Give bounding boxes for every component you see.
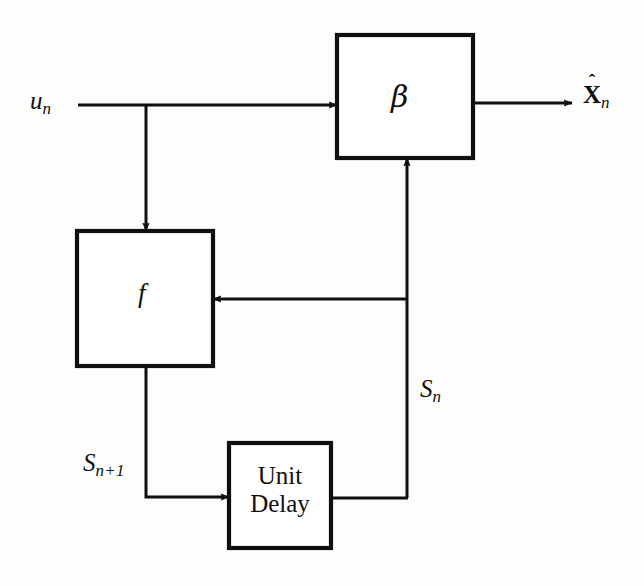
output-signal-subscript: n [601, 93, 610, 112]
f-block-label: f [138, 280, 146, 307]
figure-canvas: un β ˆ X n f Sn Sn+1 Unit Delay [0, 0, 644, 586]
unit-delay-block-label: Unit Delay [234, 462, 326, 518]
state-current-base: S [420, 375, 433, 402]
output-signal-label: ˆ X n [583, 82, 610, 111]
input-signal-base: u [30, 87, 43, 114]
state-next-base: S [83, 449, 96, 476]
state-current-label: Sn [420, 376, 441, 405]
output-hat-accent: ˆ [589, 71, 596, 91]
f-to-unit-delay-path [146, 366, 229, 497]
input-signal-label: un [30, 88, 51, 117]
input-signal-subscript: n [43, 99, 52, 118]
state-next-subscript: n+1 [96, 461, 125, 480]
output-signal-base-wrap: ˆ X [583, 82, 601, 107]
beta-block-label: β [391, 82, 408, 112]
state-next-label: Sn+1 [83, 450, 125, 479]
f-glyph: f [138, 278, 146, 308]
beta-glyph: β [391, 79, 408, 114]
state-current-subscript: n [433, 387, 442, 406]
